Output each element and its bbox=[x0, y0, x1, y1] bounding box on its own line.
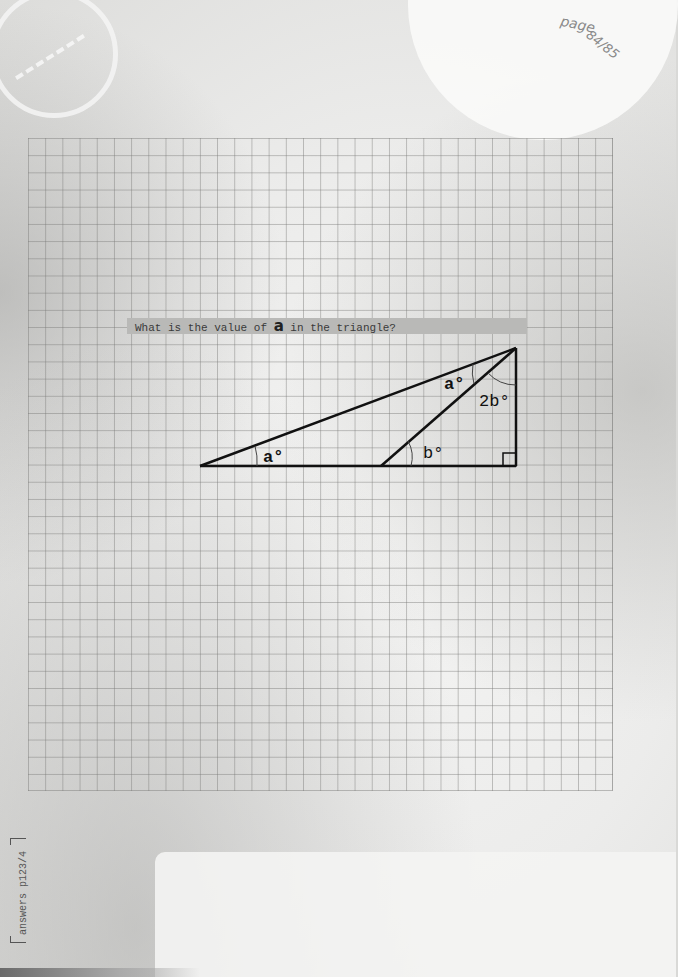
angle-label-top-right: 2b° bbox=[479, 392, 510, 411]
answer-area bbox=[155, 852, 676, 977]
bracket-bottom bbox=[10, 936, 26, 943]
bracket-top bbox=[10, 838, 26, 845]
angle-arc-top-right bbox=[488, 373, 516, 385]
angle-arc-mid bbox=[408, 441, 412, 466]
angle-label-top-inner: a° bbox=[444, 375, 464, 394]
angle-label-left: a° bbox=[263, 448, 283, 467]
angle-arc-top-inner bbox=[472, 364, 474, 384]
right-angle-marker bbox=[503, 453, 516, 466]
angle-arc-left bbox=[255, 446, 257, 466]
answers-reference: answers p123/4 bbox=[17, 855, 31, 935]
hypotenuse-line bbox=[200, 348, 516, 466]
angle-label-mid: b° bbox=[423, 444, 443, 463]
bottom-shadow-strip bbox=[0, 968, 200, 977]
